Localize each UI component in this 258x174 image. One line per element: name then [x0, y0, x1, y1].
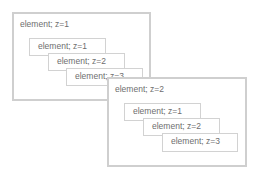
context-label: element; z=1 — [20, 19, 69, 29]
child-element-z3: element; z=3 — [162, 133, 238, 152]
stacking-context-z2: element; z=2 element; z=1 element; z=2 e… — [107, 77, 247, 167]
context-label: element; z=2 — [115, 84, 164, 94]
